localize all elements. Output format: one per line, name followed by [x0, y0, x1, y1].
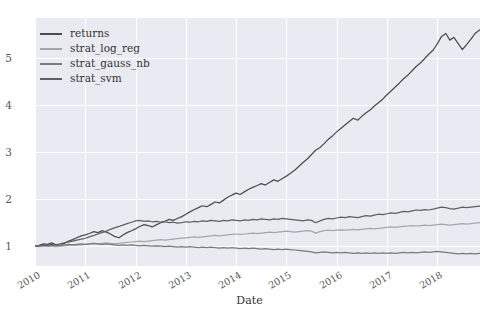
legend-swatch-returns — [40, 33, 62, 35]
y-tick-label: 4 — [5, 100, 12, 111]
legend-label-strat-svm: strat_svm — [70, 73, 122, 84]
legend-label-strat-gauss-nb: strat_gauss_nb — [70, 58, 150, 69]
y-tick-label: 5 — [5, 53, 12, 64]
legend-item-strat-gauss-nb: strat_gauss_nb — [40, 56, 150, 71]
legend-label-returns: returns — [70, 28, 109, 39]
y-tick-label: 3 — [5, 147, 12, 158]
x-tick-label: 2015 — [261, 270, 293, 294]
x-tick-label: 2011 — [60, 270, 92, 294]
x-tick-label: 2010 — [9, 270, 41, 294]
legend: returns strat_log_reg strat_gauss_nb str… — [36, 24, 154, 88]
x-tick-label: 2018 — [412, 270, 444, 294]
legend-swatch-strat-svm — [40, 78, 62, 80]
legend-label-strat-log-reg: strat_log_reg — [70, 43, 140, 54]
x-axis-label: Date — [0, 294, 499, 307]
x-tick-label: 2016 — [311, 270, 343, 294]
x-tick-label: 2012 — [110, 270, 142, 294]
legend-swatch-strat-gauss-nb — [40, 63, 62, 65]
y-tick-label: 1 — [5, 241, 12, 252]
legend-item-strat-svm: strat_svm — [40, 71, 150, 86]
legend-item-returns: returns — [40, 26, 150, 41]
legend-swatch-strat-log-reg — [40, 48, 62, 50]
x-tick-label: 2014 — [210, 270, 242, 294]
y-tick-label: 2 — [5, 194, 12, 205]
legend-item-strat-log-reg: strat_log_reg — [40, 41, 150, 56]
figure-canvas: 12345 2010201120122013201420152016201720… — [0, 0, 499, 316]
series-line-strat-log-reg — [35, 223, 480, 247]
x-tick-label: 2017 — [361, 270, 393, 294]
series-line-strat-gauss-nb — [35, 243, 480, 253]
x-tick-label: 2013 — [160, 270, 192, 294]
